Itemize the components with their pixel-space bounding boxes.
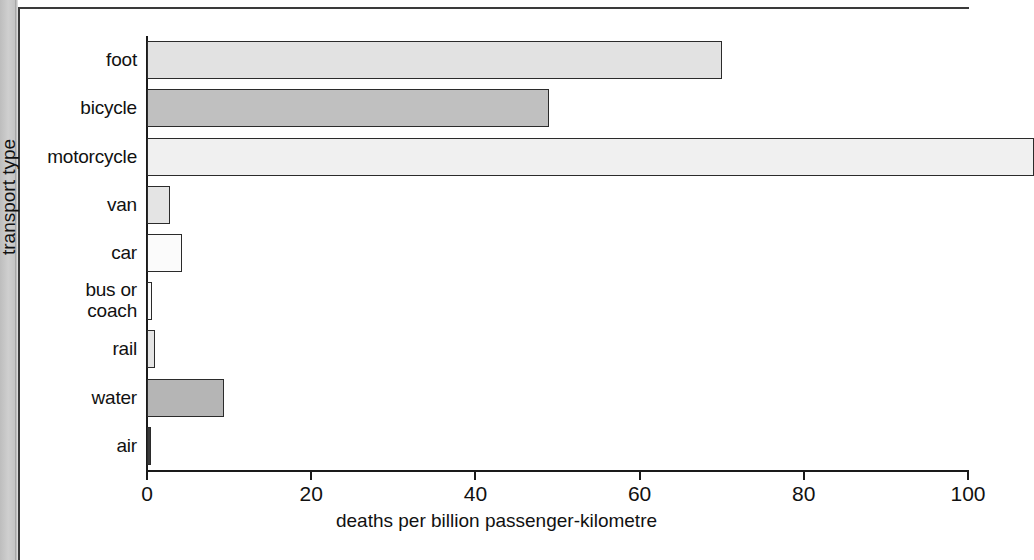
x-tick-80: [803, 470, 805, 480]
x-axis-title-text: deaths per billion passenger-kilometre: [312, 510, 657, 531]
category-label-bicycle: bicycle: [0, 97, 137, 118]
category-label-van: van: [0, 194, 137, 215]
bar-car: [147, 234, 182, 272]
category-label-air: air: [0, 435, 137, 456]
x-tick-0: [146, 470, 148, 480]
bar-rail: [147, 330, 155, 368]
x-tick-60: [639, 470, 641, 480]
category-label-foot: foot: [0, 49, 137, 70]
category-label-bus-or-coach: bus orcoach: [0, 279, 137, 321]
x-tick-label-80: 80: [792, 482, 815, 506]
category-label-motorcycle: motorcycle: [0, 146, 137, 167]
bar-motorcycle: [147, 138, 1034, 176]
x-tick-label-60: 60: [628, 482, 651, 506]
x-tick-label-20: 20: [300, 482, 323, 506]
bar-bicycle: [147, 89, 549, 127]
category-label-car: car: [0, 242, 137, 263]
bar-foot: [147, 41, 722, 79]
x-tick-100: [967, 470, 969, 480]
x-tick-40: [474, 470, 476, 480]
y-axis-title: transport type: [0, 139, 20, 255]
x-axis-line: [147, 470, 969, 472]
category-label-water: water: [0, 387, 137, 408]
bar-bus-or-coach: [147, 282, 152, 320]
bar-van: [147, 186, 170, 224]
x-tick-label-40: 40: [464, 482, 487, 506]
x-axis-title: deaths per billion passenger-kilometre: [0, 510, 969, 532]
bar-water: [147, 379, 224, 417]
x-tick-label-100: 100: [950, 482, 985, 506]
bar-air: [147, 427, 151, 465]
category-label-rail: rail: [0, 338, 137, 359]
x-tick-label-0: 0: [141, 482, 153, 506]
x-tick-20: [310, 470, 312, 480]
